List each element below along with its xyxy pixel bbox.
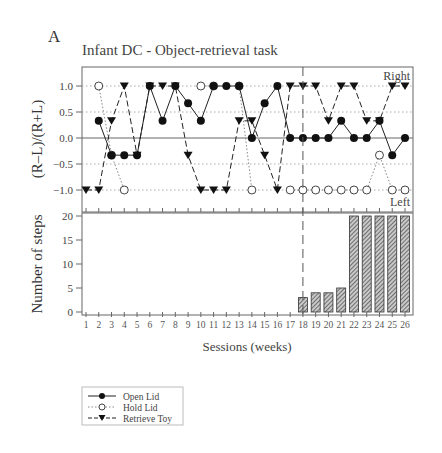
svg-text:10: 10 bbox=[196, 320, 206, 330]
bottom-y-axis-label: Number of steps bbox=[29, 214, 45, 313]
svg-text:Hold Lid: Hold Lid bbox=[123, 403, 158, 413]
figure: A Infant DC - Object-retrieval task 1.00… bbox=[0, 0, 442, 453]
svg-text:9: 9 bbox=[186, 320, 191, 330]
legend: Open LidHold LidRetrieve Toy bbox=[82, 387, 183, 425]
bar-series bbox=[298, 216, 409, 312]
svg-text:24: 24 bbox=[375, 320, 385, 330]
chart-title: Infant DC - Object-retrieval task bbox=[82, 42, 278, 58]
svg-text:22: 22 bbox=[349, 320, 359, 330]
svg-text:13: 13 bbox=[234, 320, 244, 330]
svg-text:19: 19 bbox=[311, 320, 321, 330]
bottom-y-axis-ticks: 20151050 bbox=[62, 210, 82, 318]
svg-text:25: 25 bbox=[387, 320, 397, 330]
svg-text:0: 0 bbox=[68, 306, 74, 318]
svg-text:20: 20 bbox=[324, 320, 334, 330]
svg-text:16: 16 bbox=[273, 320, 283, 330]
svg-text:Retrieve Toy: Retrieve Toy bbox=[123, 414, 172, 424]
panel-label: A bbox=[48, 27, 61, 46]
svg-text:11: 11 bbox=[209, 320, 218, 330]
annotation-right: Right bbox=[383, 69, 410, 83]
svg-text:12: 12 bbox=[222, 320, 232, 330]
svg-text:26: 26 bbox=[400, 320, 410, 330]
top-y-axis-label: (R–L)/(R+L) bbox=[29, 100, 46, 178]
svg-text:5: 5 bbox=[68, 282, 74, 294]
svg-text:−1.0: −1.0 bbox=[53, 184, 73, 196]
svg-text:Open Lid: Open Lid bbox=[123, 392, 159, 402]
svg-text:23: 23 bbox=[362, 320, 372, 330]
svg-text:4: 4 bbox=[122, 320, 127, 330]
svg-text:−0.5: −0.5 bbox=[53, 158, 73, 170]
svg-text:18: 18 bbox=[298, 320, 308, 330]
svg-text:1.0: 1.0 bbox=[59, 80, 73, 92]
svg-text:1: 1 bbox=[84, 320, 89, 330]
top-x-axis-ticks bbox=[86, 208, 405, 212]
svg-text:6: 6 bbox=[147, 320, 152, 330]
svg-text:17: 17 bbox=[285, 320, 295, 330]
x-axis-label: Sessions (weeks) bbox=[202, 339, 291, 354]
svg-text:0.0: 0.0 bbox=[59, 132, 73, 144]
annotation-left: Left bbox=[390, 195, 411, 209]
svg-text:15: 15 bbox=[260, 320, 270, 330]
svg-text:5: 5 bbox=[135, 320, 140, 330]
top-y-axis-ticks: 1.00.50.0−0.5−1.0 bbox=[53, 80, 82, 196]
svg-text:3: 3 bbox=[109, 320, 114, 330]
svg-text:21: 21 bbox=[336, 320, 346, 330]
svg-text:2: 2 bbox=[96, 320, 101, 330]
svg-text:8: 8 bbox=[173, 320, 178, 330]
svg-text:20: 20 bbox=[62, 210, 74, 222]
svg-text:15: 15 bbox=[62, 234, 74, 246]
svg-text:10: 10 bbox=[62, 258, 74, 270]
svg-text:7: 7 bbox=[160, 320, 165, 330]
svg-text:14: 14 bbox=[247, 320, 257, 330]
svg-text:0.5: 0.5 bbox=[59, 106, 73, 118]
